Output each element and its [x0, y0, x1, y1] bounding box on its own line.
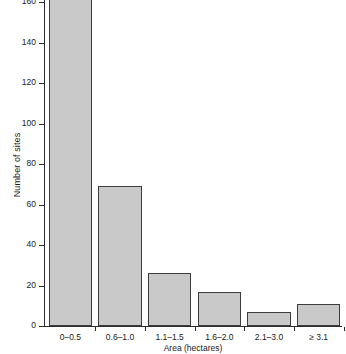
- y-axis-tick: 80: [39, 164, 44, 165]
- y-axis-tick-label: 0: [31, 320, 36, 331]
- bar: [247, 312, 291, 326]
- x-axis-tick: [294, 327, 295, 331]
- x-axis-category-label: ≥ 3.1: [294, 332, 344, 343]
- histogram-figure: Number of sites 020406080100120140160 0–…: [0, 0, 346, 354]
- x-axis-category-label: 1.6–2.0: [195, 332, 245, 343]
- bar: [297, 304, 341, 326]
- y-axis-tick: 140: [39, 43, 44, 44]
- y-axis-tick-label: 40: [27, 239, 36, 250]
- x-axis-category-label: 1.1–1.5: [145, 332, 195, 343]
- bar: [148, 273, 192, 326]
- x-axis-tick: [195, 327, 196, 331]
- bar: [49, 0, 93, 326]
- y-axis-tick-label: 120: [22, 77, 36, 88]
- x-axis-title: Area (hectares): [44, 343, 342, 353]
- y-axis-tick: 0: [39, 326, 44, 327]
- y-axis-tick: 160: [39, 2, 44, 3]
- x-axis-category-label: 0–0.5: [46, 332, 96, 343]
- y-axis-tick: 120: [39, 83, 44, 84]
- y-axis-tick-label: 140: [22, 37, 36, 48]
- y-axis-tick: 100: [39, 124, 44, 125]
- y-axis-tick-label: 100: [22, 118, 36, 129]
- y-axis-tick: 20: [39, 286, 44, 287]
- plot-area: 020406080100120140160: [44, 0, 342, 326]
- y-axis-tick-label: 80: [27, 158, 36, 169]
- x-axis-category-label: 2.1–3.0: [244, 332, 294, 343]
- bar: [98, 186, 142, 326]
- x-axis-category-label: 0.6–1.0: [95, 332, 145, 343]
- y-axis-tick: 40: [39, 245, 44, 246]
- x-axis-tick: [145, 327, 146, 331]
- x-axis-tick: [244, 327, 245, 331]
- x-axis-tick: [95, 327, 96, 331]
- y-axis-tick-label: 60: [27, 199, 36, 210]
- y-axis-tick-label: 160: [22, 0, 36, 7]
- y-axis-tick: 60: [39, 205, 44, 206]
- bar: [198, 292, 242, 326]
- y-axis-tick-label: 20: [27, 280, 36, 291]
- x-axis-line: [44, 326, 342, 327]
- y-axis-title: Number of sites: [12, 110, 22, 220]
- y-axis-line: [44, 0, 45, 327]
- x-axis-tick: [344, 327, 345, 331]
